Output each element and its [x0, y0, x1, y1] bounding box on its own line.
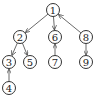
node-label: 3	[6, 57, 12, 68]
node-label: 4	[6, 83, 12, 94]
edge-2-to-3	[12, 43, 18, 56]
edge-1-to-6	[53, 16, 54, 30]
node-9: 9	[80, 56, 93, 69]
node-7: 7	[49, 56, 62, 69]
node-6: 6	[49, 31, 62, 44]
edges-layer	[9, 14, 86, 81]
edge-8-to-1	[58, 14, 81, 32]
node-label: 7	[52, 57, 58, 68]
node-label: 8	[83, 32, 89, 43]
node-8: 8	[80, 31, 93, 44]
node-label: 5	[27, 57, 33, 68]
directed-graph: 126835794	[0, 0, 98, 99]
node-label: 6	[52, 32, 58, 43]
edge-2-to-5	[22, 43, 27, 55]
node-5: 5	[24, 56, 37, 69]
node-label: 2	[17, 32, 23, 43]
node-3: 3	[3, 56, 16, 69]
nodes-layer: 126835794	[3, 4, 93, 95]
node-label: 1	[50, 5, 56, 16]
node-2: 2	[14, 31, 27, 44]
node-label: 9	[83, 57, 89, 68]
node-4: 4	[3, 82, 16, 95]
edge-1-to-2	[25, 14, 48, 32]
node-1: 1	[47, 4, 60, 17]
